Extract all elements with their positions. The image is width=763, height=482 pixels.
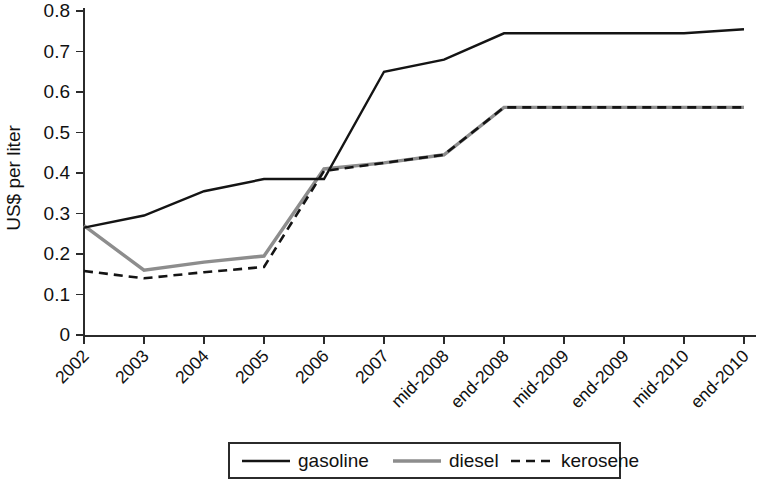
x-tick-label: mid-2010: [627, 346, 693, 412]
line-chart: 00.10.20.30.40.50.60.70.8 US$ per liter …: [0, 0, 763, 482]
x-tick-label: 2003: [111, 346, 153, 388]
x-tick-label: 2002: [51, 346, 93, 388]
x-tick-group: 200220032004200520062007mid-2008end-2008…: [51, 336, 753, 412]
x-tick-label: end-2010: [686, 346, 753, 413]
legend-label-kerosene: kerosene: [561, 450, 639, 471]
x-tick-label: 2005: [231, 346, 273, 388]
y-tick-label: 0.8: [44, 0, 70, 21]
y-axis-title: US$ per liter: [3, 125, 24, 231]
legend: gasoline diesel kerosene: [229, 443, 639, 478]
series-group: [84, 29, 744, 278]
y-tick-label: 0.7: [44, 41, 70, 62]
series-line-diesel: [84, 107, 744, 270]
y-axis-group: 00.10.20.30.40.50.60.70.8 US$ per liter: [3, 0, 84, 345]
x-tick-label: mid-2008: [387, 346, 453, 412]
series-line-gasoline: [84, 29, 744, 227]
x-axis-group: 200220032004200520062007mid-2008end-2008…: [51, 336, 756, 412]
y-tick-label: 0.3: [44, 203, 70, 224]
y-tick-label: 0.6: [44, 81, 70, 102]
legend-label-gasoline: gasoline: [298, 450, 369, 471]
y-tick-label: 0.1: [44, 284, 70, 305]
y-tick-label: 0.5: [44, 122, 70, 143]
series-line-kerosene: [84, 107, 744, 278]
y-tick-label: 0: [59, 324, 70, 345]
x-tick-label: 2004: [171, 346, 213, 388]
x-tick-label: 2007: [351, 346, 393, 388]
x-tick-label: end-2008: [446, 346, 512, 412]
legend-label-diesel: diesel: [449, 450, 499, 471]
y-tick-label: 0.2: [44, 243, 70, 264]
x-tick-label: end-2009: [566, 346, 632, 412]
y-tick-label: 0.4: [44, 162, 71, 183]
x-tick-label: 2006: [291, 346, 333, 388]
chart-canvas: 00.10.20.30.40.50.60.70.8 US$ per liter …: [0, 0, 763, 482]
y-tick-group: 00.10.20.30.40.50.60.70.8: [44, 0, 84, 345]
x-tick-label: mid-2009: [507, 346, 573, 412]
